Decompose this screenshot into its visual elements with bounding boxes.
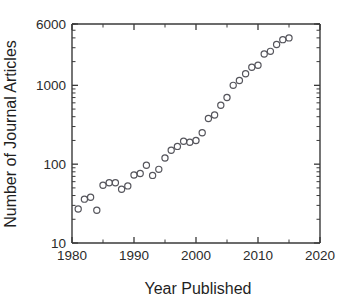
- x-tick-label: 2020: [305, 248, 335, 263]
- scatter-plot: 1010010006000 19801990200020102020 Year …: [0, 0, 355, 308]
- y-tick-label: 100: [43, 157, 66, 172]
- x-tick-label: 1980: [57, 248, 87, 263]
- x-tick-label: 2010: [243, 248, 273, 263]
- x-axis-title: Year Published: [144, 280, 251, 297]
- y-tick-label: 1000: [36, 78, 66, 93]
- y-tick-label: 6000: [36, 17, 66, 32]
- y-axis-title: Number of Journal Articles: [2, 40, 19, 228]
- x-tick-label: 2000: [181, 248, 211, 263]
- x-tick-label: 1990: [119, 248, 149, 263]
- chart-background: [0, 0, 355, 308]
- chart-figure: 1010010006000 19801990200020102020 Year …: [0, 0, 355, 308]
